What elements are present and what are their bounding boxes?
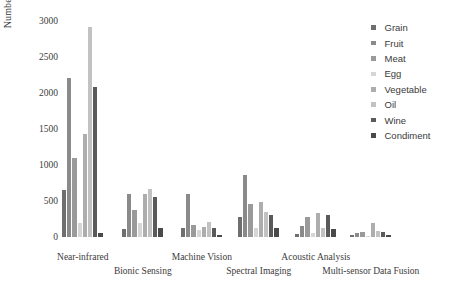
legend-item[interactable]: Wine xyxy=(371,112,455,127)
legend-item-label: Grain xyxy=(385,22,408,33)
x-axis-tick-label: Machine Vision xyxy=(172,252,232,262)
legend-item[interactable]: Egg xyxy=(371,66,455,81)
legend-item-label: Vegetable xyxy=(385,84,427,95)
legend-item-label: Egg xyxy=(385,68,402,79)
legend-item-label: Condiment xyxy=(385,130,431,141)
legend-item[interactable]: Meat xyxy=(371,51,455,66)
x-axis-tick-label: Multi-sensor Data Fusion xyxy=(322,266,419,276)
legend-swatch-icon xyxy=(371,102,376,107)
x-axis-tick-label: Bionic Sensing xyxy=(114,266,172,276)
legend-item[interactable]: Vegetable xyxy=(371,82,455,97)
legend-item-label: Wine xyxy=(385,115,407,126)
legend-item-label: Fruit xyxy=(385,38,404,49)
x-axis-tick-label: Spectral Imaging xyxy=(226,266,291,276)
legend-item[interactable]: Oil xyxy=(371,97,455,112)
x-axis-tick-label: Acoustic Analysis xyxy=(281,252,350,262)
legend-swatch-icon xyxy=(371,41,376,46)
legend-swatch-icon xyxy=(371,72,376,77)
bar-chart-figure: Number of research papers 05001000150020… xyxy=(0,0,456,289)
legend-swatch-icon xyxy=(371,133,376,138)
legend-item[interactable]: Condiment xyxy=(371,128,455,143)
legend: GrainFruitMeatEggVegetableOilWineCondime… xyxy=(371,20,455,143)
legend-item-label: Oil xyxy=(385,99,397,110)
legend-item[interactable]: Grain xyxy=(371,20,455,35)
legend-item[interactable]: Fruit xyxy=(371,35,455,50)
legend-swatch-icon xyxy=(371,25,376,30)
legend-swatch-icon xyxy=(371,87,376,92)
legend-swatch-icon xyxy=(371,118,376,123)
x-axis-tick-label: Near-infrared xyxy=(57,252,109,262)
legend-swatch-icon xyxy=(371,56,376,61)
legend-item-label: Meat xyxy=(385,53,406,64)
